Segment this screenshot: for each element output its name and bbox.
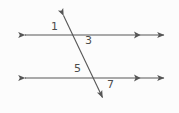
angle-label-7: 7 [107,79,114,90]
angle-label-1: 1 [51,21,58,32]
geometry-figure: 1 3 5 7 [0,0,179,113]
transversal-segment [64,16,103,98]
geometry-diagram-svg [0,0,179,113]
top-parallel-line [25,32,164,39]
angle-label-3: 3 [85,35,92,46]
transversal-line [64,16,103,98]
angle-label-5: 5 [74,63,81,74]
